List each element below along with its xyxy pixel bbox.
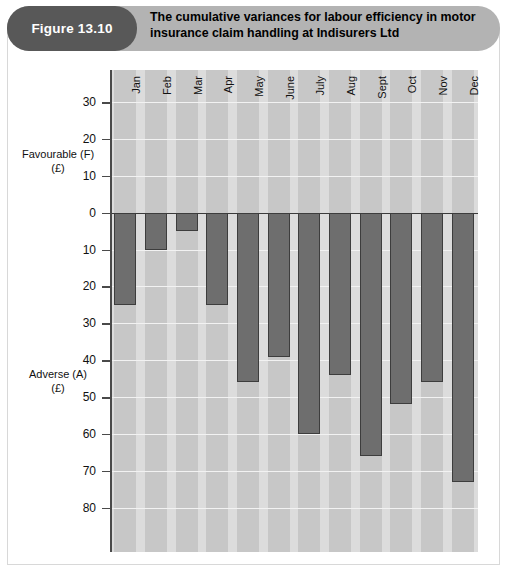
y-tick-label-wrap: 50: [56, 391, 96, 403]
category-label-mar: Mar: [192, 76, 204, 136]
y-tick: [102, 102, 110, 104]
category-label-may: May: [253, 76, 265, 136]
gridline: [110, 508, 478, 509]
y-tick-label-wrap: 0: [56, 207, 96, 219]
bar-oct: [390, 213, 412, 405]
y-tick: [102, 508, 110, 510]
y-tick-label-wrap: 40: [56, 354, 96, 366]
y-tick: [102, 434, 110, 436]
y-axis-line: [110, 70, 112, 552]
y-tick-label-wrap: 10: [56, 170, 96, 182]
category-band: [176, 70, 198, 552]
y-tick-label: 40: [62, 354, 96, 366]
category-label-feb: Feb: [161, 76, 173, 136]
y-tick-label-wrap: 60: [56, 428, 96, 440]
y-tick: [102, 471, 110, 473]
category-label-dec: Dec: [468, 76, 480, 136]
y-tick: [102, 213, 110, 215]
category-label-oct: Oct: [406, 76, 418, 136]
category-label-apr: Apr: [222, 76, 234, 136]
y-tick-label-wrap: 30: [56, 317, 96, 329]
gridline: [110, 397, 478, 398]
bar-dec: [452, 213, 474, 482]
y-tick-label: 10: [62, 170, 96, 182]
y-tick-label: 60: [62, 428, 96, 440]
y-tick-label: 50: [62, 391, 96, 403]
gridline: [110, 176, 478, 177]
y-tick: [102, 286, 110, 288]
category-label-aug: Aug: [345, 76, 357, 136]
bar-june: [268, 213, 290, 357]
bar-may: [237, 213, 259, 383]
gridline: [110, 139, 478, 140]
category-band: [145, 70, 167, 552]
category-label-sept: Sept: [376, 76, 388, 136]
category-band: [114, 70, 136, 552]
category-label-jan: Jan: [130, 76, 142, 136]
category-band: [206, 70, 228, 552]
y-tick-label-wrap: 80: [56, 502, 96, 514]
y-tick: [102, 176, 110, 178]
y-tick-label-wrap: 20: [56, 133, 96, 145]
bar-mar: [176, 213, 198, 231]
adverse-caption-line1: Adverse (A): [10, 368, 106, 382]
favourable-caption-line1: Favourable (F): [10, 148, 106, 162]
y-tick: [102, 250, 110, 252]
y-tick-label: 0: [62, 207, 96, 219]
y-tick-label-wrap: 70: [56, 465, 96, 477]
y-tick-label: 80: [62, 502, 96, 514]
y-tick-label-wrap: 20: [56, 280, 96, 292]
bar-apr: [206, 213, 228, 305]
y-tick: [102, 139, 110, 141]
bar-nov: [421, 213, 443, 383]
y-tick: [102, 360, 110, 362]
y-tick: [102, 397, 110, 399]
y-tick-label: 10: [62, 244, 96, 256]
bar-jan: [114, 213, 136, 305]
bar-sept: [360, 213, 382, 456]
y-tick-label: 20: [62, 280, 96, 292]
y-tick-label: 30: [62, 317, 96, 329]
y-tick-label: 20: [62, 133, 96, 145]
plot-area: JanFebMarAprMayJuneJulyAugSeptOctNovDec: [110, 70, 478, 552]
gridline: [110, 471, 478, 472]
bar-july: [298, 213, 320, 434]
y-tick-label-wrap: 10: [56, 244, 96, 256]
category-label-nov: Nov: [437, 76, 449, 136]
bar-chart: Favourable (F) (£) Adverse (A) (£) JanFe…: [0, 0, 507, 568]
category-label-july: July: [314, 76, 326, 136]
y-tick-label: 70: [62, 465, 96, 477]
gridline: [110, 434, 478, 435]
bar-aug: [329, 213, 351, 375]
y-tick-label: 30: [62, 96, 96, 108]
y-tick: [102, 323, 110, 325]
y-tick-label-wrap: 30: [56, 96, 96, 108]
bar-feb: [145, 213, 167, 250]
category-label-june: June: [284, 76, 296, 136]
